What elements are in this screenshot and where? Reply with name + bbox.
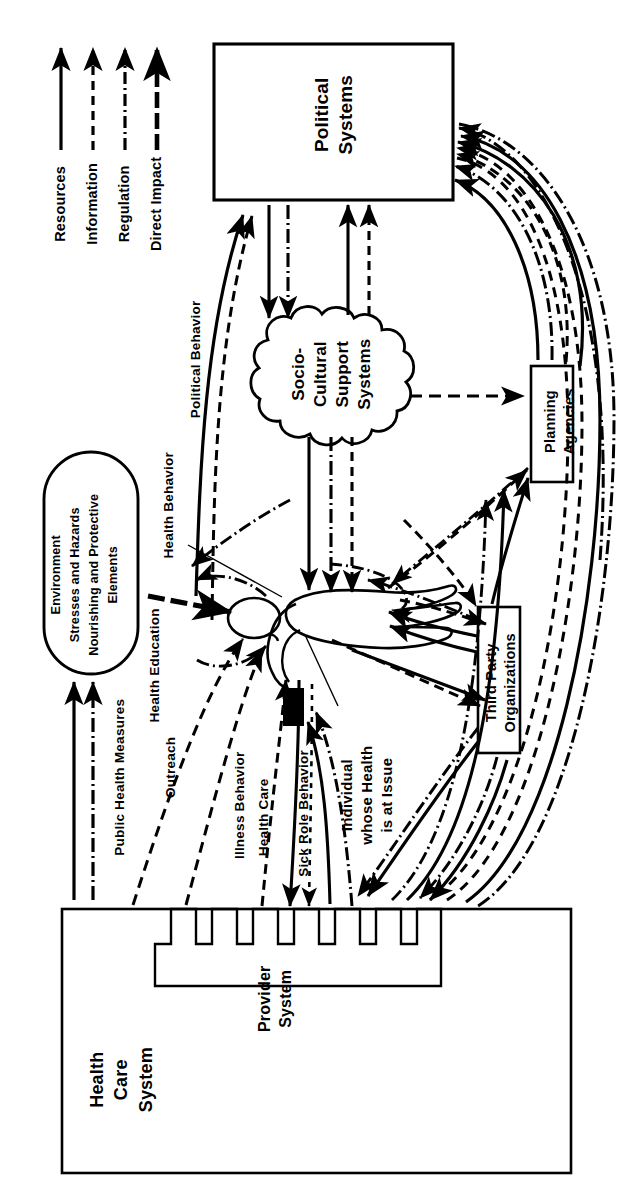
provider-system-outline (155, 909, 441, 986)
edge-label-sick-role-behavior: Sick Role Behavior (297, 728, 312, 898)
edge-label-outreach: Outreach (164, 712, 179, 822)
edge-label-public-health-measures: Public Health Measures (113, 682, 128, 872)
edge-label-health-education: Health Education (148, 590, 163, 740)
individual-small-blob (228, 598, 280, 638)
edge-label-political-behavior: Political Behavior (189, 279, 204, 439)
third-party-label: Third Party Organizations (482, 618, 520, 748)
individual-blob-arm (268, 604, 297, 690)
health-behavior-leader-line (188, 545, 282, 597)
diagram-canvas: Resources Information Regulation Direct … (0, 0, 633, 1190)
environment-label: Environment Stresses and Hazards Nourish… (47, 477, 123, 673)
individual-blob-arm-inner (282, 630, 300, 682)
edge-sc-to-environment-regulation (192, 500, 290, 566)
edge-individual-to-third-party-information-2 (332, 640, 480, 706)
legend-label-resources: Resources (53, 149, 69, 259)
legend-label-direct-impact: Direct Impact (149, 149, 165, 259)
individual-label: Individual whose Health is at Issue (337, 715, 397, 875)
edge-environment-to-individual-regulation-lower (197, 646, 266, 666)
legend-label-regulation: Regulation (117, 149, 133, 259)
edge-outreach-information (186, 650, 262, 905)
edge-individual-regulation-loop (330, 564, 407, 610)
edge-political-behavior-information (212, 216, 252, 620)
edge-label-health-behavior: Health Behavior (162, 435, 177, 575)
edge-planning-to-sc-regulation (392, 468, 528, 584)
edge-label-illness-behavior: Illness Behavior (233, 735, 248, 875)
edge-label-health-care: Health Care (257, 757, 272, 877)
provider-system-label: Provider System (255, 944, 297, 1054)
individual-blob-main (286, 586, 461, 649)
edge-individual-to-environment-regulation-upper (196, 576, 266, 596)
political-systems-label: Political Systems (310, 43, 358, 187)
edge-ps-to-provider-outer-regulation (459, 124, 614, 906)
edge-individual-to-third-party-resources (352, 650, 485, 700)
individual-marker-block (283, 688, 304, 726)
legend-label-information: Information (85, 149, 101, 259)
edge-provider-to-third-party-regulation (420, 757, 497, 898)
health-care-system-label: Health Care System (85, 1020, 158, 1140)
edge-third-party-to-planning-resources (492, 478, 528, 604)
edge-ps-to-provider-outer-information-b (433, 158, 568, 898)
edge-ps-to-planning-resources (455, 180, 538, 360)
planning-agencies-label: Planning Agencies (541, 372, 578, 472)
socio-cultural-label: Socio- Cultural Support Systems (288, 315, 376, 433)
